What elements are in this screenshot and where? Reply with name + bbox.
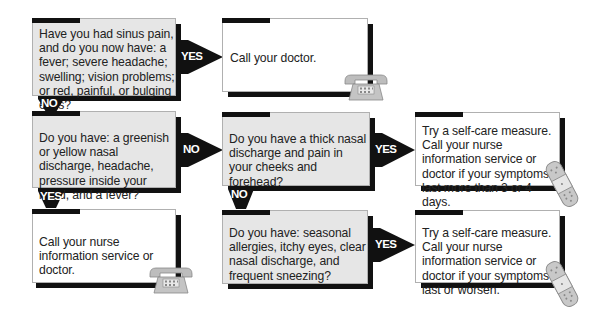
no-arrow: NO bbox=[176, 133, 224, 167]
yes-arrow: YES bbox=[368, 228, 416, 262]
no-label: NO bbox=[231, 188, 247, 200]
bandage-icon bbox=[545, 158, 579, 210]
yes-arrow: YES bbox=[176, 40, 224, 74]
yes-label: YES bbox=[375, 143, 397, 155]
box-tab bbox=[32, 111, 80, 116]
answer-text: Call your doctor. bbox=[230, 51, 360, 65]
yes-label: YES bbox=[40, 190, 62, 202]
answer-text: Try a self-care measure. Call your nurse… bbox=[422, 124, 562, 209]
question-text: Do you have: seasonal allergies, itchy e… bbox=[229, 226, 367, 283]
yes-arrow: YES bbox=[38, 188, 64, 209]
no-label: NO bbox=[183, 143, 199, 155]
bandage-icon bbox=[545, 258, 579, 310]
no-arrow: NO bbox=[228, 186, 254, 210]
no-label: NO bbox=[41, 97, 57, 109]
question-text: Do you have a thick nasal discharge and … bbox=[229, 132, 367, 189]
box-tab bbox=[32, 18, 80, 23]
box-tab bbox=[222, 210, 270, 215]
yes-label: YES bbox=[181, 50, 203, 62]
yes-arrow: YES bbox=[370, 133, 416, 167]
yes-label: YES bbox=[375, 238, 397, 250]
box-tab bbox=[415, 210, 463, 215]
answer-text: Try a self-care measure. Call your nurse… bbox=[422, 226, 562, 297]
box-tab bbox=[415, 112, 463, 117]
box-tab bbox=[222, 18, 270, 23]
telephone-icon bbox=[148, 266, 194, 294]
box-tab bbox=[32, 209, 80, 214]
telephone-icon bbox=[343, 73, 389, 101]
box-tab bbox=[222, 112, 270, 117]
